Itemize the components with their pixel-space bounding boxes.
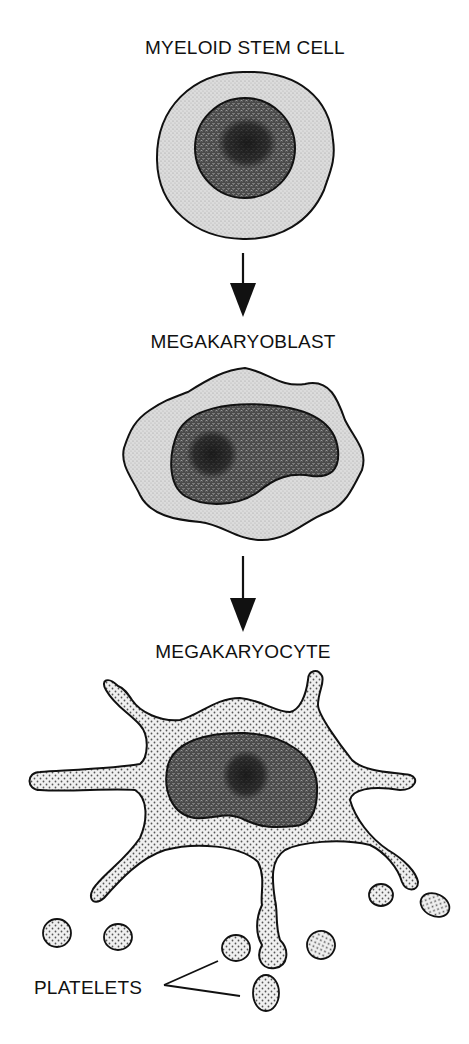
megakaryoblast-nucleolus — [186, 429, 238, 479]
megakaryocyte-illustration — [30, 671, 419, 968]
platelets-label: PLATELETS — [34, 977, 142, 998]
platelet — [222, 935, 250, 961]
stage-label-stem-cell: MYELOID STEM CELL — [145, 37, 345, 58]
platelet — [303, 927, 339, 963]
platelet — [104, 924, 132, 950]
stage-label-megakaryoblast: MEGAKARYOBLAST — [150, 331, 335, 352]
platelet — [417, 889, 453, 922]
megakaryocyte-nucleolus — [222, 750, 270, 800]
arrow-blast-to-cyte-icon — [230, 556, 256, 632]
platelets-pointer-lines — [164, 961, 240, 996]
myeloid-stem-cell-illustration — [157, 72, 334, 239]
megakaryoblast-illustration — [123, 368, 363, 540]
stage-label-megakaryocyte: MEGAKARYOCYTE — [155, 641, 330, 662]
platelet — [369, 884, 393, 906]
megakaryopoiesis-diagram: MYELOID STEM CELL MEGAKARYOBLAST MEGAKAR… — [0, 0, 469, 1044]
platelet — [43, 919, 71, 947]
stem-cell-nucleolus — [217, 117, 277, 169]
arrow-stem-to-blast-icon — [230, 253, 256, 317]
platelet — [253, 975, 279, 1011]
